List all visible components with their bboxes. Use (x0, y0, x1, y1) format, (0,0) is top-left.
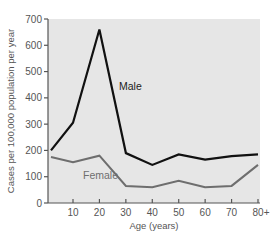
x-tick-label: 70 (226, 207, 238, 218)
y-tick-label: 500 (25, 66, 42, 77)
series-label-female: Female (83, 169, 118, 181)
plot-background (48, 19, 260, 203)
y-axis-title: Cases per 100,000 population per year (5, 29, 16, 193)
y-tick-label: 0 (36, 198, 42, 209)
x-tick-label: 80+ (253, 207, 270, 218)
x-tick-label: 10 (67, 207, 79, 218)
line-chart: 0100200300400500600700 1020304050607080+… (0, 0, 271, 236)
y-tick-label: 200 (25, 145, 42, 156)
x-tick-label: 50 (173, 207, 185, 218)
series-label-male: Male (119, 80, 142, 92)
y-tick-label: 100 (25, 171, 42, 182)
x-tick-label: 60 (200, 207, 212, 218)
y-tick-label: 300 (25, 119, 42, 130)
x-tick-label: 40 (147, 207, 159, 218)
y-tick-label: 700 (25, 14, 42, 25)
x-tick-label: 20 (94, 207, 106, 218)
y-tick-label: 600 (25, 40, 42, 51)
y-axis: 0100200300400500600700 (25, 14, 48, 209)
y-tick-label: 400 (25, 92, 42, 103)
x-axis-title: Age (years) (129, 220, 178, 231)
x-tick-label: 30 (120, 207, 132, 218)
